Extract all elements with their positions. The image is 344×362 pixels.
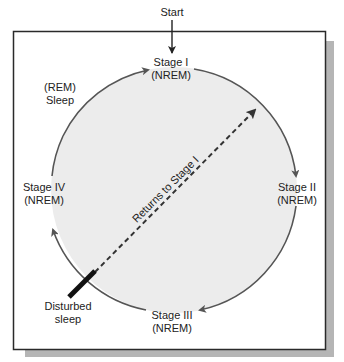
disturbed-label-line1: Disturbed: [44, 300, 91, 312]
disturbed-label-line2: sleep: [55, 313, 81, 325]
stage3-label-line2: (NREM): [152, 322, 192, 334]
stage1-label-line1: Stage I: [154, 56, 189, 68]
rem-label-line2: Sleep: [46, 94, 74, 106]
stage1-label-line2: (NREM): [151, 69, 191, 81]
stage2-label-line2: (NREM): [277, 194, 317, 206]
stage3-label-line1: Stage III: [152, 309, 193, 321]
stage2-label-line1: Stage II: [278, 181, 316, 193]
start-label: Start: [160, 6, 183, 18]
stage4-label-line2: (NREM): [24, 194, 64, 206]
stage4-label-line1: Stage IV: [23, 181, 66, 193]
rem-label-line1: (REM): [44, 81, 76, 93]
sleep-cycle-diagram: Start Stage I (NREM) Stage II (NREM) Sta…: [0, 0, 344, 362]
